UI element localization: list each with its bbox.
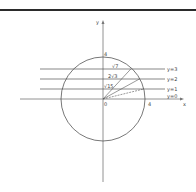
- line-label-y2: y=2: [167, 76, 177, 83]
- origin-label: 0: [104, 101, 107, 107]
- chord-label-y2: 2√3: [108, 73, 118, 79]
- circle-diagram: y x 0 4 4 √7 2√3 √15 y=3 y=2 y=1 y=0: [0, 0, 196, 192]
- top-radius-label: 4: [104, 51, 107, 57]
- line-label-y0: y=0: [167, 93, 177, 100]
- right-radius-label: 4: [148, 101, 151, 107]
- y-axis-arrow-icon: [102, 20, 105, 24]
- line-label-y1: y=1: [167, 86, 177, 93]
- chord-label-y3: √7: [112, 63, 118, 69]
- x-axis-label: x: [183, 101, 186, 107]
- chord-label-y1: √15: [104, 83, 114, 89]
- line-label-y3: y=3: [167, 66, 177, 73]
- radius-y1: [103, 89, 144, 99]
- y-axis-label: y: [96, 19, 99, 26]
